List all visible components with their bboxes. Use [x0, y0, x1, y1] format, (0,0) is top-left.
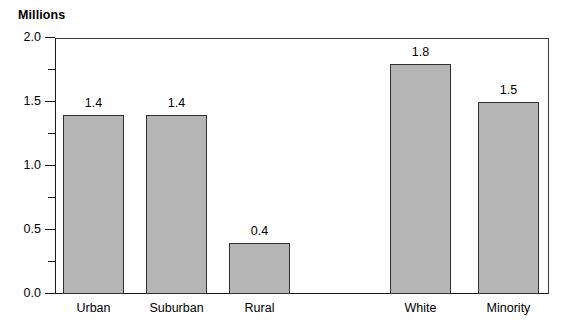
bar-value-label: 0.4 [229, 224, 290, 238]
bar-value-label: 1.4 [146, 96, 207, 110]
plot-frame [55, 38, 549, 294]
y-axis-tick-major [45, 293, 55, 294]
y-axis-tick-minor [48, 133, 55, 134]
category-label: Rural [209, 301, 310, 315]
y-axis-tick-minor [48, 197, 55, 198]
y-axis-tick-minor [48, 69, 55, 70]
bar [229, 243, 290, 294]
category-label: Minority [458, 301, 559, 315]
bar-chart: Millions 0.00.51.01.52.0 1.41.40.41.81.5… [0, 0, 566, 329]
bar-value-label: 1.8 [390, 45, 451, 59]
y-axis-tick-minor [48, 261, 55, 262]
y-axis-label: 1.5 [24, 94, 45, 108]
bar [478, 102, 539, 294]
category-label: White [370, 301, 471, 315]
bar [146, 115, 207, 294]
bar-value-label: 1.4 [63, 96, 124, 110]
bar-value-label: 1.5 [478, 83, 539, 97]
y-axis-tick-major [45, 229, 55, 230]
y-axis-title: Millions [18, 8, 65, 22]
y-axis-tick-major [45, 37, 55, 38]
y-axis-label: 2.0 [24, 30, 45, 44]
y-axis-label: 0.0 [24, 286, 45, 300]
y-axis-label: 0.5 [24, 222, 45, 236]
bar [390, 64, 451, 294]
bar [63, 115, 124, 294]
y-axis-tick-major [45, 165, 55, 166]
y-axis-tick-major [45, 101, 55, 102]
y-axis-label: 1.0 [24, 158, 45, 172]
